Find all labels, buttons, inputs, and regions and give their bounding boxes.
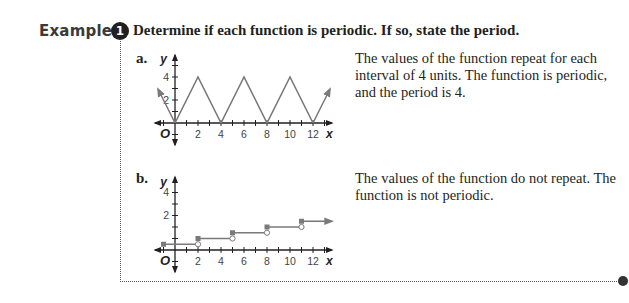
svg-text:10: 10 [284,255,296,267]
svg-text:O: O [160,253,170,268]
graph-b: 2 4 6 8 10 12 2 4 O x y [0,0,629,303]
svg-text:12: 12 [307,255,319,267]
svg-text:x: x [325,254,334,268]
svg-text:6: 6 [241,255,247,267]
svg-text:2: 2 [163,209,169,221]
svg-text:2: 2 [195,255,201,267]
graph-b-axes: 2 4 6 8 10 12 2 4 O x y [155,175,334,272]
graph-b-closed-points [161,219,304,247]
svg-text:4: 4 [218,255,224,267]
svg-text:y: y [159,175,168,189]
svg-text:8: 8 [264,255,270,267]
graph-b-step-function [164,221,333,244]
